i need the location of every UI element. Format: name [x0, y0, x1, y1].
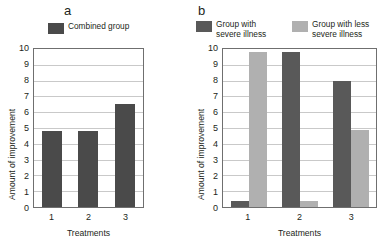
bar	[42, 131, 62, 207]
plot-area-a	[33, 48, 144, 208]
y-tick-label: 10	[19, 44, 29, 53]
y-tick-label: 3	[24, 156, 29, 165]
panel-letter-a: a	[64, 4, 71, 17]
bar-series-a	[34, 49, 143, 207]
y-axis-ticks-b: 012345678910	[197, 48, 218, 208]
x-axis-title-b: Treatments	[222, 229, 377, 238]
bar-group	[223, 49, 274, 207]
legend-entry-less-severe-illness: Group with less severe illness	[292, 20, 369, 39]
bar	[300, 201, 318, 207]
bar-series-b	[223, 49, 376, 207]
bar	[115, 104, 135, 207]
y-tick-label: 8	[24, 76, 29, 85]
y-tick-label: 2	[213, 172, 218, 181]
y-tick-label: 6	[24, 108, 29, 117]
legend-label-severe-illness: Group with severe illness	[216, 20, 266, 39]
y-tick-label: 0	[213, 204, 218, 213]
y-tick-label: 1	[213, 188, 218, 197]
y-tick-label: 4	[213, 140, 218, 149]
y-tick-label: 6	[213, 108, 218, 117]
x-tick-label: 2	[274, 213, 326, 222]
legend-swatch-combined-group	[48, 23, 64, 34]
legend-swatch-severe-illness	[196, 21, 212, 32]
bar-group	[107, 49, 143, 207]
y-axis-ticks-a: 012345678910	[8, 48, 29, 208]
y-tick-label: 10	[208, 44, 218, 53]
x-axis-title-a: Treatments	[33, 229, 144, 238]
bar-group	[34, 49, 70, 207]
y-tick-label: 1	[24, 188, 29, 197]
bar	[282, 52, 300, 207]
y-tick-label: 7	[24, 92, 29, 101]
x-axis-ticks-b: 123	[222, 213, 377, 222]
legend-swatch-less-severe-illness	[292, 21, 308, 32]
y-tick-label: 3	[213, 156, 218, 165]
x-tick-label: 2	[70, 213, 107, 222]
legend-label-less-severe-illness: Group with less severe illness	[312, 20, 369, 39]
bar	[351, 130, 369, 207]
legend-a: Combined group	[48, 22, 129, 34]
y-tick-label: 5	[213, 124, 218, 133]
bar-group	[70, 49, 106, 207]
y-tick-label: 7	[213, 92, 218, 101]
legend-b: Group with severe illness Group with les…	[196, 20, 385, 39]
legend-entry-severe-illness: Group with severe illness	[196, 20, 292, 39]
y-tick-label: 0	[24, 204, 29, 213]
chart-panel-a: a Combined group Amount of improvement 0…	[0, 0, 192, 246]
bar	[231, 201, 249, 207]
y-tick-label: 4	[24, 140, 29, 149]
legend-entry-combined-group: Combined group	[48, 22, 129, 34]
legend-label-combined-group: Combined group	[68, 22, 129, 32]
chart-panel-b: b Group with severe illness Group with l…	[192, 0, 385, 246]
bar	[78, 131, 98, 207]
y-tick-label: 2	[24, 172, 29, 181]
y-tick-label: 9	[24, 60, 29, 69]
bar-group	[274, 49, 325, 207]
bar-group	[325, 49, 376, 207]
y-tick-label: 5	[24, 124, 29, 133]
bar	[333, 81, 351, 207]
x-axis-ticks-a: 123	[33, 213, 144, 222]
x-tick-label: 1	[222, 213, 274, 222]
y-tick-label: 8	[213, 76, 218, 85]
bar	[249, 52, 267, 207]
panel-letter-b: b	[198, 4, 205, 17]
figure: a Combined group Amount of improvement 0…	[0, 0, 385, 246]
x-tick-label: 3	[107, 213, 144, 222]
plot-area-b	[222, 48, 377, 208]
x-tick-label: 3	[325, 213, 377, 222]
y-tick-label: 9	[213, 60, 218, 69]
x-tick-label: 1	[33, 213, 70, 222]
